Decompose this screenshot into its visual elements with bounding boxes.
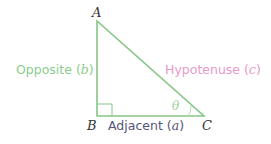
opposite-var: b (81, 62, 89, 77)
opposite-text: Opposite (16, 62, 72, 77)
opposite-close: ) (89, 62, 94, 77)
right-angle-marker (97, 104, 112, 116)
hypotenuse-var: c (249, 62, 256, 77)
hypotenuse-label: Hypotenuse (c) (165, 64, 261, 77)
adjacent-close: ) (179, 118, 184, 133)
theta-label: θ (172, 100, 179, 112)
hypotenuse-close: ) (256, 62, 261, 77)
adjacent-text: Adjacent (108, 118, 163, 133)
adjacent-var: a (172, 118, 179, 133)
vertex-c-label: C (202, 119, 212, 132)
vertex-a-label: A (92, 6, 101, 19)
vertex-b-label: B (87, 119, 97, 132)
hypotenuse-text: Hypotenuse (165, 62, 240, 77)
angle-arc (188, 106, 191, 116)
adjacent-label: Adjacent (a) (108, 120, 184, 133)
opposite-label: Opposite (b) (16, 64, 94, 77)
